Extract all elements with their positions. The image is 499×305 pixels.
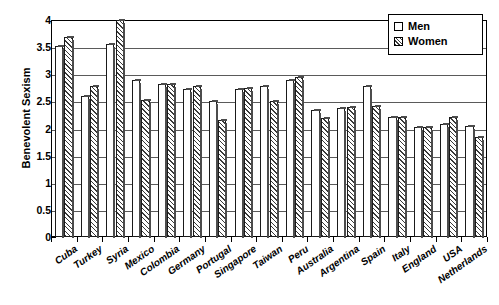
bar-usa-men xyxy=(440,124,448,237)
bar-colombia-men xyxy=(158,84,166,237)
legend-item-women[interactable]: Women xyxy=(394,34,477,49)
bar-shadow xyxy=(97,89,99,238)
bar-group xyxy=(256,20,282,237)
bar-turkey-men xyxy=(81,96,89,237)
bar-group xyxy=(128,20,154,237)
bar-group xyxy=(333,20,359,237)
bar-shadow xyxy=(417,126,423,128)
bar-shadow xyxy=(119,19,125,21)
bar-shadow xyxy=(379,109,381,238)
bar-shadow xyxy=(251,91,253,238)
bar-group xyxy=(51,20,77,237)
bar-spain-women xyxy=(372,106,380,237)
bar-shadow xyxy=(58,45,64,47)
x-axis-tick-mark xyxy=(307,237,308,242)
bar-shadow xyxy=(328,121,330,238)
y-axis-tick-label: 1.5 xyxy=(21,150,51,162)
bar-argentina-women xyxy=(347,107,355,237)
x-axis-tick-mark xyxy=(102,237,103,242)
x-axis-label-spain: Spain xyxy=(358,243,387,268)
bar-group xyxy=(179,20,205,237)
bar-shadow xyxy=(263,85,269,87)
y-axis-tick-label: 1 xyxy=(21,177,51,189)
bar-syria-men xyxy=(106,44,114,237)
bar-peru-women xyxy=(295,77,303,237)
bar-shadow xyxy=(212,100,218,102)
bar-shadow xyxy=(149,103,151,238)
bar-colombia-women xyxy=(167,84,175,237)
y-axis-tick-label: 3 xyxy=(21,68,51,80)
bar-shadow xyxy=(289,79,295,81)
bar-shadow xyxy=(277,104,279,238)
bar-spain-men xyxy=(363,86,371,237)
bar-shadow xyxy=(238,88,244,90)
bar-shadow xyxy=(375,105,381,107)
bar-shadow xyxy=(468,125,474,127)
bar-shadow xyxy=(174,87,176,238)
bar-shadow xyxy=(350,106,356,108)
bar-portugal-men xyxy=(209,101,217,237)
x-axis-tick-mark xyxy=(77,237,78,242)
bar-shadow xyxy=(170,83,176,85)
y-axis-tick-group: 00.511.522.533.54 xyxy=(14,20,51,237)
x-axis-tick-mark xyxy=(205,237,206,242)
bar-mexico-women xyxy=(141,100,149,237)
bar-germany-men xyxy=(183,89,191,237)
bar-shadow xyxy=(109,43,115,45)
bar-singapore-women xyxy=(244,88,252,237)
x-axis-label-group: CubaTurkeySyriaMexicoColombiaGermanyPort… xyxy=(51,243,499,305)
bar-group xyxy=(205,20,231,237)
bar-turkey-women xyxy=(90,86,98,237)
benevolent-sexism-bar-chart: Benevolent Sexism 00.511.522.533.54 Cuba… xyxy=(0,0,499,305)
legend-label-men: Men xyxy=(408,21,430,32)
bar-shadow xyxy=(354,110,356,238)
legend-item-men[interactable]: Men xyxy=(394,19,477,34)
bar-shadow xyxy=(482,140,484,238)
bar-shadow xyxy=(273,100,279,102)
bar-group xyxy=(154,20,180,237)
bar-shadow xyxy=(72,40,74,238)
bar-shadow xyxy=(452,116,458,118)
bar-cuba-women xyxy=(64,37,72,237)
bar-shadow xyxy=(161,83,167,85)
x-axis-tick-mark xyxy=(179,237,180,242)
bar-shadow xyxy=(391,116,397,118)
bar-shadow xyxy=(443,123,449,125)
bar-shadow xyxy=(302,80,304,238)
legend-label-women: Women xyxy=(408,36,448,47)
x-axis-tick-mark xyxy=(282,237,283,242)
bar-shadow xyxy=(366,85,372,87)
x-axis-tick-mark xyxy=(384,237,385,242)
bar-italy-women xyxy=(398,117,406,237)
bar-shadow xyxy=(456,120,458,238)
open-square-icon xyxy=(394,22,403,31)
bar-shadow xyxy=(247,87,253,89)
bar-shadow xyxy=(314,109,320,111)
y-axis-tick-label: 2.5 xyxy=(21,95,51,107)
bar-group xyxy=(359,20,385,237)
bar-italy-men xyxy=(388,117,396,237)
hatched-square-icon xyxy=(394,37,403,46)
y-axis-tick-label: 3.5 xyxy=(21,41,51,53)
bar-shadow xyxy=(478,136,484,138)
bar-shadow xyxy=(84,95,90,97)
y-axis-tick-label: 2 xyxy=(21,123,51,135)
y-axis-tick-label: 0.5 xyxy=(21,204,51,216)
x-axis-tick-mark xyxy=(128,237,129,242)
bar-shadow xyxy=(426,126,432,128)
bar-syria-women xyxy=(116,20,124,237)
x-axis-tick-mark xyxy=(436,237,437,242)
bar-argentina-men xyxy=(337,108,345,237)
bar-cuba-men xyxy=(55,46,63,237)
bar-shadow xyxy=(401,116,407,118)
bar-taiwan-women xyxy=(270,101,278,237)
bar-shadow xyxy=(67,36,73,38)
bar-shadow xyxy=(144,99,150,101)
bar-taiwan-men xyxy=(260,86,268,237)
bar-australia-women xyxy=(321,118,329,237)
bar-shadow xyxy=(324,117,330,119)
bar-germany-women xyxy=(193,86,201,237)
bar-shadow xyxy=(186,88,192,90)
y-axis-tick-label: 0 xyxy=(21,231,51,243)
bar-shadow xyxy=(431,130,433,238)
